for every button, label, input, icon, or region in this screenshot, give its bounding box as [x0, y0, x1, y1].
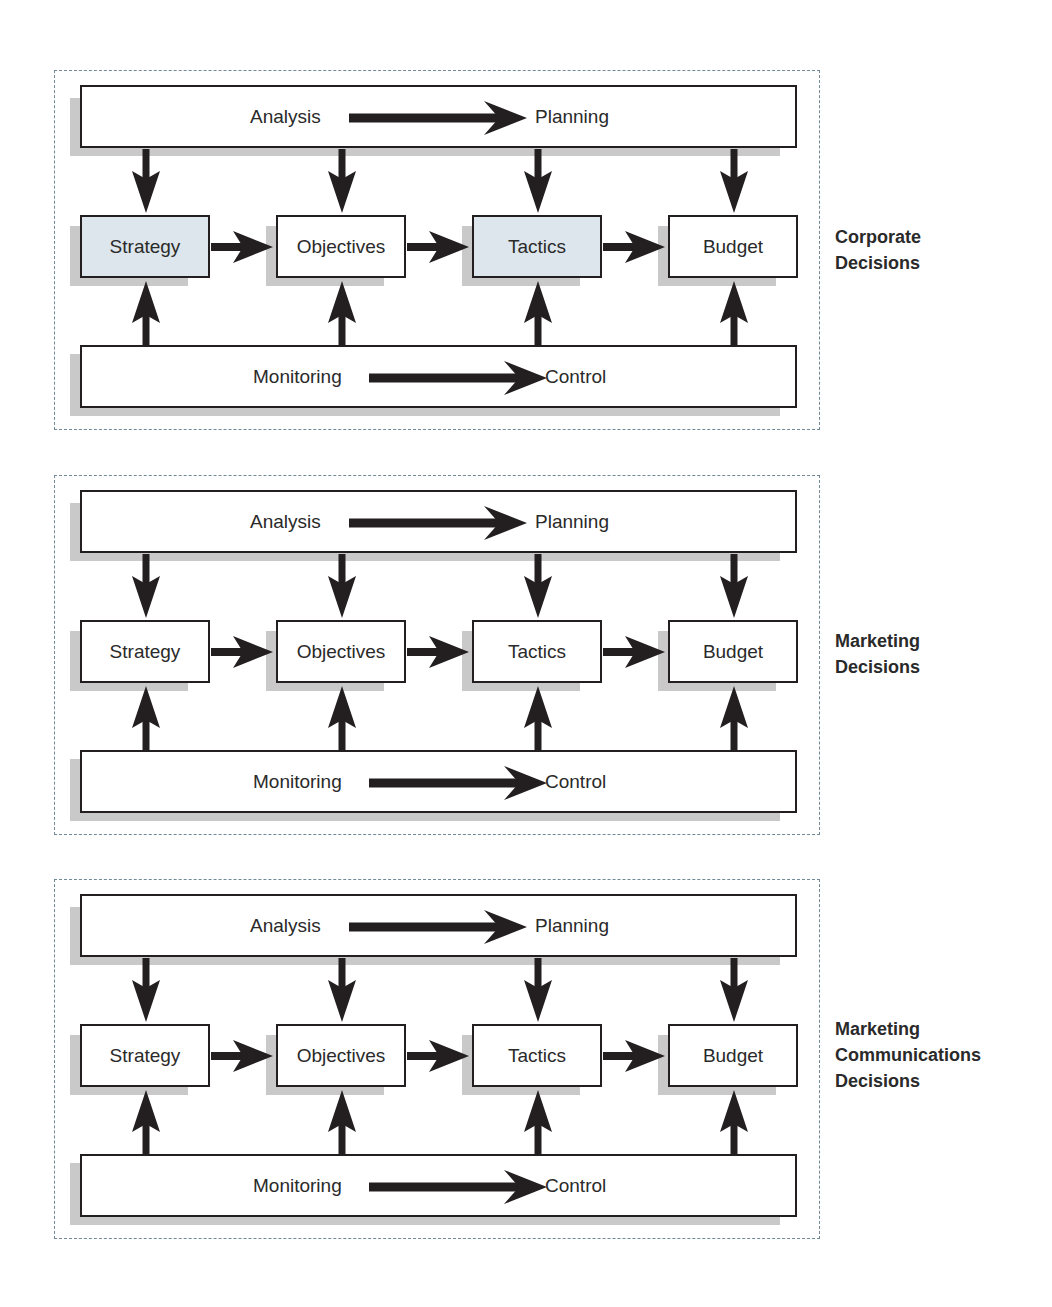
arrows-layer — [0, 0, 1052, 1307]
arrow-icon — [132, 101, 748, 395]
arrow-icon — [132, 910, 748, 1204]
arrow-icon — [132, 506, 748, 800]
